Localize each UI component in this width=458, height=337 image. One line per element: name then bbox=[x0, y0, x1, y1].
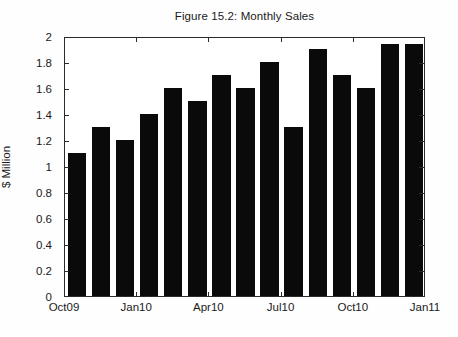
y-tick-mark bbox=[64, 63, 69, 64]
x-tick-mark-top bbox=[136, 37, 137, 42]
x-tick-mark-top bbox=[353, 37, 354, 42]
x-tick-label: Jul10 bbox=[267, 301, 295, 313]
y-tick-label: 0.4 bbox=[36, 239, 52, 251]
y-tick-label: 1.4 bbox=[36, 109, 52, 121]
y-tick-mark bbox=[64, 193, 69, 194]
plot-area bbox=[64, 37, 425, 297]
bar bbox=[236, 88, 254, 296]
bar bbox=[309, 49, 327, 296]
x-tick-label: Oct09 bbox=[49, 301, 80, 313]
bar bbox=[381, 44, 399, 296]
x-tick-mark bbox=[136, 292, 137, 297]
bar bbox=[333, 75, 351, 296]
bar bbox=[116, 140, 134, 296]
y-tick-label: 0.6 bbox=[36, 213, 52, 225]
y-tick-mark bbox=[64, 141, 69, 142]
bar bbox=[260, 62, 278, 296]
y-tick-label: 0.8 bbox=[36, 187, 52, 199]
y-tick-mark-right bbox=[419, 141, 424, 142]
bar bbox=[68, 153, 86, 296]
y-tick-mark-right bbox=[419, 115, 424, 116]
y-tick-label: 1.6 bbox=[36, 83, 52, 95]
y-tick-mark bbox=[64, 245, 69, 246]
y-tick-mark-right bbox=[419, 219, 424, 220]
bar bbox=[188, 101, 206, 296]
x-tick-label: Oct10 bbox=[337, 301, 368, 313]
y-tick-label: 1 bbox=[46, 161, 52, 173]
bar bbox=[357, 88, 375, 296]
y-tick-mark-right bbox=[419, 63, 424, 64]
x-tick-label: Apr10 bbox=[193, 301, 224, 313]
y-tick-mark-right bbox=[419, 245, 424, 246]
y-tick-label: 0.2 bbox=[36, 265, 52, 277]
y-tick-mark bbox=[64, 219, 69, 220]
y-tick-label: 2 bbox=[46, 31, 52, 43]
chart-title: Figure 15.2: Monthly Sales bbox=[64, 10, 425, 22]
x-tick-mark-top bbox=[208, 37, 209, 42]
bar bbox=[140, 114, 158, 296]
figure-canvas: Figure 15.2: Monthly Sales $ Million 00.… bbox=[0, 0, 458, 337]
bar bbox=[212, 75, 230, 296]
y-tick-mark-right bbox=[419, 193, 424, 194]
x-tick-label: Jan10 bbox=[121, 301, 152, 313]
y-tick-label: 1.2 bbox=[36, 135, 52, 147]
y-tick-mark bbox=[64, 271, 69, 272]
x-tick-mark-top bbox=[281, 37, 282, 42]
y-tick-mark bbox=[64, 167, 69, 168]
bar bbox=[284, 127, 302, 296]
x-tick-mark bbox=[353, 292, 354, 297]
x-tick-mark bbox=[208, 292, 209, 297]
bar bbox=[405, 44, 423, 296]
y-tick-label: 1.8 bbox=[36, 57, 52, 69]
bar bbox=[92, 127, 110, 296]
y-tick-mark bbox=[64, 89, 69, 90]
bar bbox=[164, 88, 182, 296]
y-axis-tick-labels: 00.20.40.60.811.21.41.61.82 bbox=[0, 37, 58, 297]
y-tick-mark-right bbox=[419, 271, 424, 272]
bars-container bbox=[65, 38, 424, 296]
y-tick-mark-right bbox=[419, 89, 424, 90]
y-tick-mark bbox=[64, 115, 69, 116]
y-tick-mark-right bbox=[419, 167, 424, 168]
x-tick-label: Jan11 bbox=[410, 301, 440, 313]
x-tick-mark bbox=[281, 292, 282, 297]
